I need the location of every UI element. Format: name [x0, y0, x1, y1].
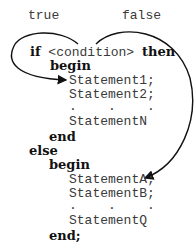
else-keyword: else: [29, 144, 58, 157]
end-keyword-else: end;: [49, 229, 81, 242]
ellipsis-then: . . .: [69, 100, 155, 113]
statement-1: Statement1;: [69, 74, 155, 87]
statement-a: StatementA;: [69, 173, 155, 186]
begin-keyword-else: begin: [49, 158, 90, 171]
true-label: true: [28, 8, 59, 23]
if-keyword: if: [30, 44, 41, 59]
begin-keyword-then: begin: [50, 59, 91, 72]
if-line: if <condition> then: [30, 45, 175, 59]
then-keyword: then: [142, 44, 175, 59]
statement-n: StatementN: [69, 115, 147, 128]
false-label: false: [122, 8, 161, 23]
ellipsis-else: . . .: [69, 199, 155, 212]
statement-q: StatementQ: [69, 214, 147, 227]
end-keyword-then: end: [49, 130, 76, 143]
